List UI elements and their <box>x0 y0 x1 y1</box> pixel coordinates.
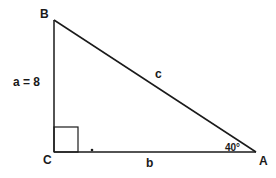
vertex-label-c: C <box>43 153 52 167</box>
side-label-c: c <box>155 67 162 81</box>
side-c <box>54 20 256 152</box>
angle-label-a: 40° <box>225 142 240 153</box>
vertex-label-b: B <box>40 7 49 21</box>
triangle-diagram: B C A a = 8 b c 40° <box>0 0 276 178</box>
side-label-b: b <box>146 156 153 170</box>
dot-mark <box>91 149 94 152</box>
vertex-label-a: A <box>259 154 268 168</box>
side-label-a: a = 8 <box>13 75 40 89</box>
right-angle-marker <box>54 127 78 152</box>
